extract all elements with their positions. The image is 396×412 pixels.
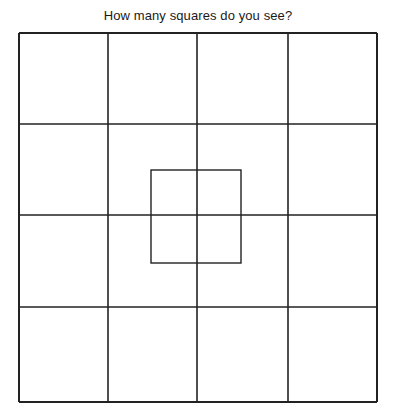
square-grid-figure	[0, 0, 396, 412]
grid-lines	[19, 33, 377, 402]
inner-square	[151, 170, 241, 263]
